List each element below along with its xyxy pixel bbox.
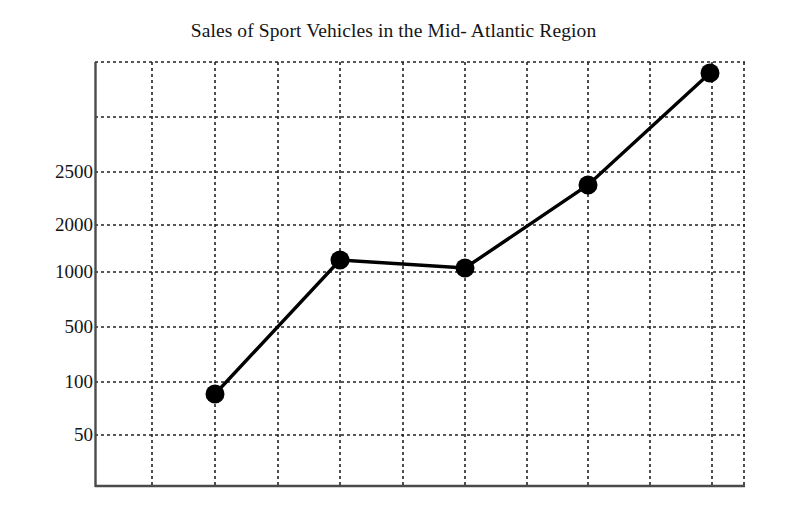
vertical-gridlines [152,62,744,487]
y-tick-label: 100 [7,372,93,391]
y-axis-tick-labels: 2500 2000 1000 500 100 50 [0,0,93,515]
plot-area [95,62,745,487]
data-point[interactable] [206,385,225,404]
data-point[interactable] [331,251,350,270]
y-tick-label: 2500 [7,162,93,181]
y-tick-label: 500 [7,317,93,336]
y-tick-label: 50 [7,425,93,444]
horizontal-gridlines [95,62,745,435]
data-point[interactable] [701,64,720,83]
chart-title: Sales of Sport Vehicles in the Mid- Atla… [0,20,787,42]
data-line [215,73,710,394]
y-tick-label: 1000 [7,262,93,281]
y-tick-label: 2000 [7,215,93,234]
data-points [206,64,720,404]
plot-svg [95,62,745,487]
data-point[interactable] [579,176,598,195]
data-point[interactable] [456,259,475,278]
chart-container: Sales of Sport Vehicles in the Mid- Atla… [0,0,787,515]
